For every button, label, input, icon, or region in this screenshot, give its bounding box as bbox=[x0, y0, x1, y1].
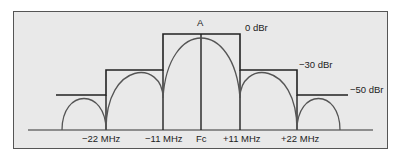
x-label-plus22: +22 MHz bbox=[281, 133, 319, 144]
lobe-minus1 bbox=[106, 73, 163, 130]
lobe-plus2 bbox=[297, 99, 340, 131]
peak-marker-label: A bbox=[197, 17, 203, 28]
lobe-plus1 bbox=[240, 73, 297, 130]
level-label-0dbr: 0 dBr bbox=[245, 22, 268, 33]
x-label-minus22: −22 MHz bbox=[82, 133, 120, 144]
lobe-minus2 bbox=[62, 99, 106, 131]
level-label-50dbr: −50 dBr bbox=[350, 84, 384, 95]
x-label-fc: Fc bbox=[196, 133, 207, 144]
x-label-minus11: −11 MHz bbox=[145, 133, 183, 144]
x-label-plus11: +11 MHz bbox=[223, 133, 261, 144]
level-label-30dbr: −30 dBr bbox=[299, 59, 333, 70]
